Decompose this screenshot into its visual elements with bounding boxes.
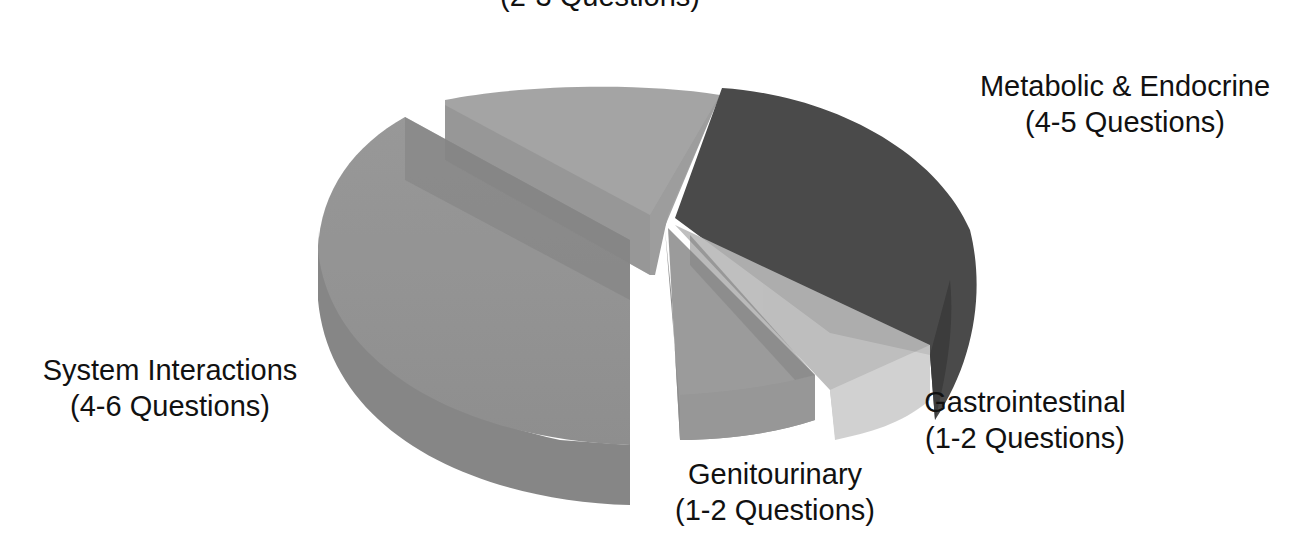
label-metabolic-endocrine: Metabolic & Endocrine (4-5 Questions) (950, 68, 1300, 140)
label-genitourinary: Genitourinary (1-2 Questions) (630, 456, 920, 528)
label-gastrointestinal: Gastrointestinal (1-2 Questions) (895, 384, 1155, 456)
label-gi-name: Gastrointestinal (895, 384, 1155, 420)
label-metabolic-name: Metabolic & Endocrine (950, 68, 1300, 104)
label-system-name: System Interactions (10, 352, 330, 388)
label-gu-range: (1-2 Questions) (630, 492, 920, 528)
label-system-range: (4-6 Questions) (10, 388, 330, 424)
label-system-interactions: System Interactions (4-6 Questions) (10, 352, 330, 424)
label-top-range: (2-3 Questions) (420, 0, 780, 14)
label-metabolic-range: (4-5 Questions) (950, 104, 1300, 140)
label-gi-range: (1-2 Questions) (895, 420, 1155, 456)
label-top-category: (2-3 Questions) (420, 0, 780, 14)
pie-chart: (2-3 Questions) Metabolic & Endocrine (4… (0, 0, 1306, 556)
label-gu-name: Genitourinary (630, 456, 920, 492)
